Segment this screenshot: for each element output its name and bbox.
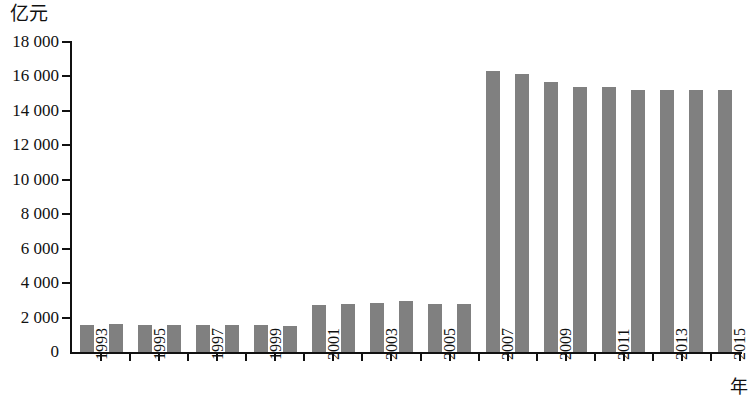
x-tick-label: 2015 — [732, 328, 748, 360]
x-tick-label: 1999 — [268, 328, 284, 360]
bar — [544, 82, 558, 352]
x-tick-mark — [710, 354, 712, 361]
bar — [660, 90, 674, 352]
y-tick-mark — [62, 110, 71, 112]
y-axis-unit-label: 亿元 — [10, 2, 48, 24]
y-tick-label: 4 000 — [21, 274, 59, 291]
bar — [225, 325, 239, 352]
y-tick-label: 10 000 — [12, 171, 59, 188]
bar — [573, 87, 587, 352]
x-tick-mark — [652, 354, 654, 361]
y-tick-label: 0 — [51, 343, 60, 360]
bar — [399, 301, 413, 352]
plot-area — [72, 42, 740, 352]
x-tick-mark — [361, 354, 363, 361]
bar — [254, 325, 268, 352]
x-tick-label: 1995 — [152, 328, 168, 360]
x-tick-label: 2013 — [674, 328, 690, 360]
bar — [138, 325, 152, 352]
bar — [312, 305, 326, 352]
x-tick-label: 2001 — [326, 328, 342, 360]
x-tick-mark — [478, 354, 480, 361]
x-tick-label: 2011 — [616, 329, 632, 360]
x-tick-mark — [245, 354, 247, 361]
bar — [167, 325, 181, 352]
y-tick-label: 18 000 — [12, 33, 59, 50]
x-tick-label: 2005 — [442, 328, 458, 360]
x-tick-mark — [536, 354, 538, 361]
bar-chart: 亿元 02 0004 0006 0008 00010 00012 00014 0… — [0, 0, 755, 405]
x-axis-line — [70, 352, 742, 354]
y-tick-mark — [62, 282, 71, 284]
bar — [457, 304, 471, 352]
bar — [80, 325, 94, 352]
bar — [631, 90, 645, 352]
y-tick-label: 14 000 — [12, 102, 59, 119]
bar — [109, 324, 123, 352]
x-tick-mark — [594, 354, 596, 361]
y-tick-mark — [62, 75, 71, 77]
x-tick-mark — [129, 354, 131, 361]
y-tick-mark — [62, 179, 71, 181]
y-tick-label: 16 000 — [12, 67, 59, 84]
y-tick-label: 8 000 — [21, 205, 59, 222]
bar — [602, 87, 616, 352]
bar — [428, 304, 442, 352]
bar — [486, 71, 500, 352]
bar — [283, 326, 297, 352]
x-tick-label: 2009 — [558, 328, 574, 360]
y-tick-label: 12 000 — [12, 136, 59, 153]
x-tick-label: 2003 — [384, 328, 400, 360]
y-tick-mark — [62, 41, 71, 43]
x-tick-mark — [420, 354, 422, 361]
bar — [370, 303, 384, 352]
y-tick-label: 6 000 — [21, 240, 59, 257]
bar — [718, 90, 732, 352]
bar — [196, 325, 210, 352]
y-tick-mark — [62, 144, 71, 146]
x-tick-label: 2007 — [500, 328, 516, 360]
bar — [689, 90, 703, 352]
x-tick-mark — [303, 354, 305, 361]
x-tick-label: 1993 — [94, 328, 110, 360]
y-tick-mark — [62, 248, 71, 250]
x-tick-label: 1997 — [210, 328, 226, 360]
bar — [341, 304, 355, 352]
x-axis-unit-label: 年 — [730, 378, 748, 396]
y-tick-label: 2 000 — [21, 309, 59, 326]
y-tick-mark — [62, 213, 71, 215]
bar — [515, 74, 529, 352]
x-tick-mark — [187, 354, 189, 361]
y-tick-mark — [62, 317, 71, 319]
